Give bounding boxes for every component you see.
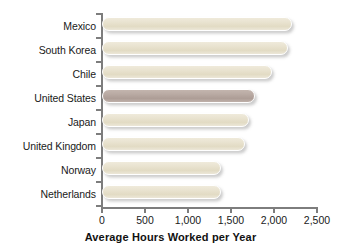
bar-chile	[102, 65, 272, 79]
y-axis-line	[101, 13, 103, 208]
bar-mexico	[102, 17, 292, 31]
x-tick-label-5: 2,500	[295, 214, 339, 226]
y-axis-label-3: United States	[4, 92, 96, 104]
x-tick-3	[230, 207, 232, 213]
bar-netherlands	[102, 185, 221, 199]
bar-united-kingdom	[102, 137, 245, 151]
y-axis-label-7: Netherlands	[4, 188, 96, 200]
y-tick-0	[96, 37, 102, 39]
y-axis-label-6: Norway	[4, 164, 96, 176]
x-tick-4	[273, 207, 275, 213]
y-tick-4	[96, 133, 102, 135]
bar-chart: Mexico South Korea Chile United States J…	[0, 0, 341, 252]
y-tick-1	[96, 61, 102, 63]
y-tick-3	[96, 109, 102, 111]
x-tick-2	[187, 207, 189, 213]
bar-south-korea	[102, 41, 288, 55]
x-tick-1	[144, 207, 146, 213]
y-axis-label-2: Chile	[4, 68, 96, 80]
x-axis-title: Average Hours Worked per Year	[0, 231, 341, 243]
y-axis-label-4: Japan	[4, 116, 96, 128]
y-axis-label-0: Mexico	[4, 20, 96, 32]
plot-area: Mexico South Korea Chile United States J…	[0, 0, 341, 252]
x-tick-0	[101, 207, 103, 213]
bar-norway	[102, 161, 221, 175]
x-tick-label-4: 2,000	[252, 214, 296, 226]
y-axis-label-1: South Korea	[4, 44, 96, 56]
x-tick-label-1: 500	[123, 214, 167, 226]
x-tick-5	[316, 207, 318, 213]
y-tick-5	[96, 157, 102, 159]
y-tick-2	[96, 85, 102, 87]
x-axis-line	[101, 207, 317, 209]
x-tick-label-0: 0	[80, 214, 124, 226]
x-tick-label-3: 1,500	[209, 214, 253, 226]
x-tick-label-2: 1,000	[166, 214, 210, 226]
bar-japan	[102, 113, 249, 127]
y-tick-6	[96, 181, 102, 183]
y-axis-label-5: United Kingdom	[4, 140, 96, 152]
y-tick-top	[96, 13, 102, 15]
bar-united-states	[102, 89, 255, 103]
